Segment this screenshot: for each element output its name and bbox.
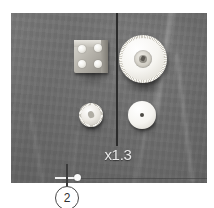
block-side-face — [101, 40, 108, 73]
disc-center-hole — [140, 113, 144, 117]
callout-number: 2 — [64, 192, 71, 204]
part-gear — [119, 35, 167, 83]
screw-head — [94, 44, 102, 52]
annotated-photo-figure: x1.3 2 — [0, 0, 214, 208]
part-knob — [79, 103, 103, 127]
callout-anchor-dot — [74, 174, 81, 181]
baseline-rule — [77, 178, 207, 179]
screw-head — [78, 60, 86, 68]
callout-stem — [66, 164, 68, 188]
screw-head — [94, 60, 102, 68]
part-block — [74, 40, 108, 73]
callout-bubble-2: 2 — [55, 186, 79, 208]
screw-head — [78, 45, 86, 53]
workbench-photo: x1.3 — [11, 13, 207, 183]
vertical-leader-line — [116, 13, 118, 146]
scale-label: x1.3 — [96, 146, 140, 163]
part-disc — [128, 101, 156, 129]
